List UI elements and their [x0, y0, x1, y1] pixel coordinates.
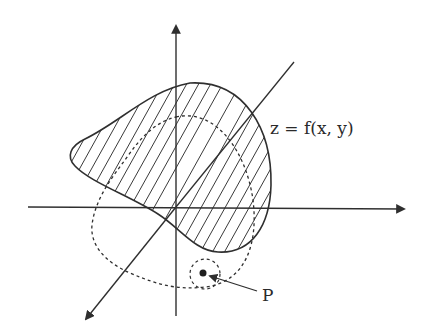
point-pointer-arrow: [210, 276, 257, 291]
diagram-canvas: [0, 0, 423, 332]
shaded-surface-region: [70, 83, 271, 252]
point-label: P: [262, 285, 273, 305]
hatching: [20, 60, 344, 260]
surface-function-label: z = f(x, y): [270, 118, 354, 138]
horizontal-axis: [28, 207, 404, 209]
point-P: [200, 270, 207, 277]
depth-axis: [86, 207, 176, 319]
